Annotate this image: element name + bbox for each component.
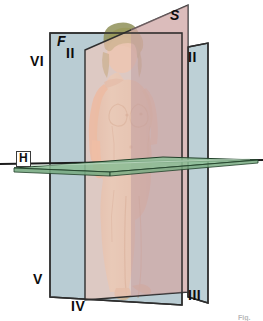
anatomical-planes-diagram: F S VI II II V IV III H Fig. xyxy=(0,0,263,321)
quadrant-label-iii: III xyxy=(188,288,201,302)
figure-corner-mark: Fig. xyxy=(238,314,250,321)
frontal-plane-code-label: F xyxy=(57,34,66,48)
horizontal-plane xyxy=(0,157,263,176)
quadrant-label-ii-right: II xyxy=(188,50,197,64)
frontal-plane-far-edge xyxy=(188,43,208,303)
sagittal-plane xyxy=(85,5,188,300)
horizontal-plane-code-label: H xyxy=(16,151,31,167)
quadrant-label-iv: IV xyxy=(71,299,85,313)
quadrant-label-v: V xyxy=(33,272,43,286)
sagittal-plane-code-label: S xyxy=(170,8,179,22)
quadrant-label-ii-left: II xyxy=(66,46,75,60)
quadrant-label-vi: VI xyxy=(30,54,44,68)
